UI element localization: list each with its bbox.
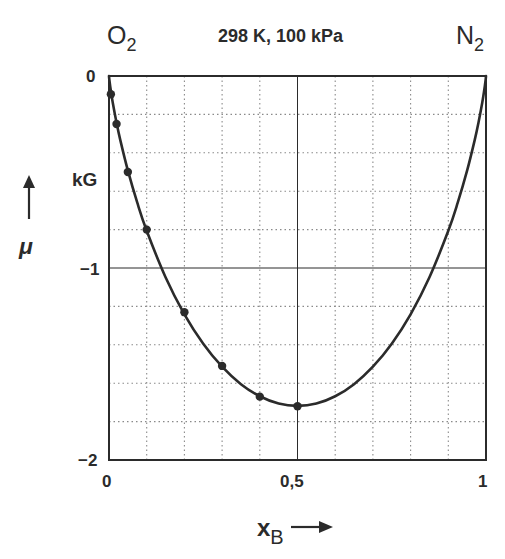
data-point [218, 362, 226, 370]
data-point [112, 120, 120, 128]
data-point [107, 90, 115, 98]
data-point [293, 402, 301, 410]
data-point [143, 225, 151, 233]
data-point-markers [107, 90, 302, 410]
data-point [256, 392, 264, 400]
chemical-potential-chart [0, 0, 505, 559]
data-point [124, 168, 132, 176]
data-point [180, 308, 188, 316]
